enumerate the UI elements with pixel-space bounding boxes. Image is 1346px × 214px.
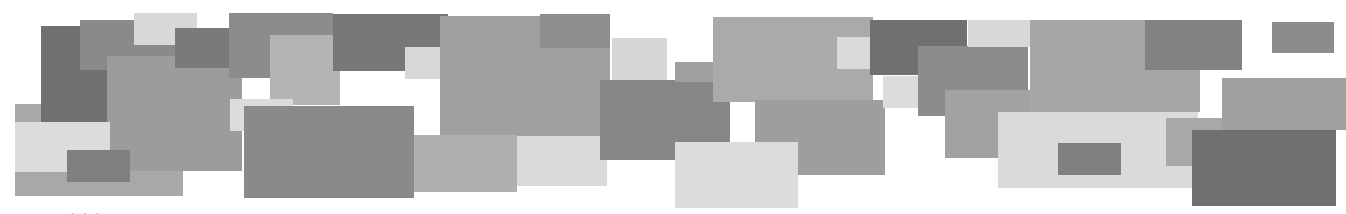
gray-rectangle [540,14,610,48]
gray-rectangle [675,142,798,208]
gray-rectangle [414,135,517,192]
gray-rectangle [968,20,1030,47]
gray-rectangle [517,136,607,186]
gray-rectangle [612,38,667,80]
gray-rectangle [270,35,340,105]
clipped-caption-text: · · · [70,205,102,214]
gray-rectangle [1145,20,1242,70]
gray-rectangle [1058,143,1121,175]
gray-rectangle [67,150,130,182]
gray-rectangle [1272,22,1334,53]
gray-rectangle [675,62,715,82]
gray-rectangle [883,76,918,108]
gray-rectangle [1192,130,1336,206]
abstract-rectangles-graphic [0,0,1346,214]
gray-rectangle [244,106,414,198]
gray-rectangle [1222,78,1346,130]
